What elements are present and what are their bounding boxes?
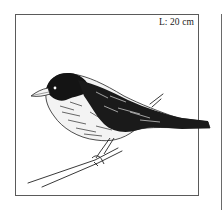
bird-illustration [0, 0, 224, 210]
size-label: L: 20 cm [159, 17, 194, 27]
bird-body [31, 73, 210, 141]
